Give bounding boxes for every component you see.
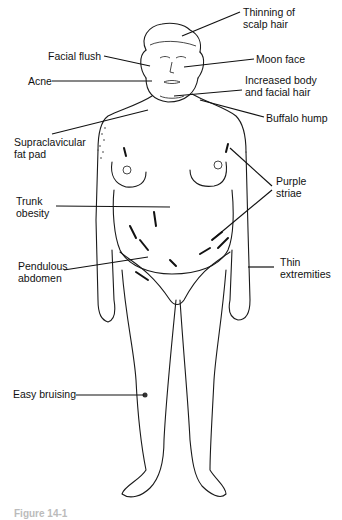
label-increased-body-facial-hair: Increased body and facial hair — [245, 74, 317, 98]
label-thin-extremities: Thin extremities — [280, 256, 331, 280]
label-pendulous-abdomen: Pendulous abdomen — [18, 260, 68, 284]
head — [141, 23, 204, 102]
label-purple-striae: Purple striae — [276, 175, 306, 199]
label-easy-bruising: Easy bruising — [13, 388, 76, 400]
cushing-syndrome-figure: Thinning of scalp hair Facial flush Moon… — [0, 0, 342, 520]
label-facial-flush: Facial flush — [48, 50, 101, 62]
label-supraclavicular-fat-pad: Supraclavicular fat pad — [14, 136, 86, 160]
label-trunk-obesity: Trunk obesity — [16, 195, 49, 219]
label-buffalo-hump: Buffalo hump — [266, 112, 328, 124]
torso — [96, 94, 250, 322]
label-thinning-scalp-hair: Thinning of scalp hair — [243, 6, 295, 30]
leader-lines — [52, 12, 274, 395]
label-moon-face: Moon face — [256, 53, 305, 65]
purple-striae-marks — [124, 144, 228, 280]
figure-caption: Figure 14-1 — [14, 508, 67, 519]
label-acne: Acne — [28, 75, 52, 87]
